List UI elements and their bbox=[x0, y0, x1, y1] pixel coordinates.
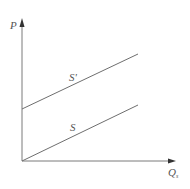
x-axis-arrow-icon bbox=[168, 159, 176, 164]
y-axis-arrow-icon bbox=[20, 18, 25, 27]
x-axis-label-subscript: s bbox=[176, 173, 178, 179]
supply-curve-s-prime bbox=[22, 54, 138, 109]
x-axis-label-main: Q bbox=[168, 166, 176, 178]
s-prime-label: S' bbox=[69, 72, 77, 83]
supply-curve-s bbox=[22, 105, 138, 161]
y-axis-label: P bbox=[10, 20, 17, 31]
supply-diagram bbox=[0, 0, 190, 189]
s-label: S bbox=[70, 122, 76, 133]
x-axis-label: Qs bbox=[168, 167, 178, 179]
